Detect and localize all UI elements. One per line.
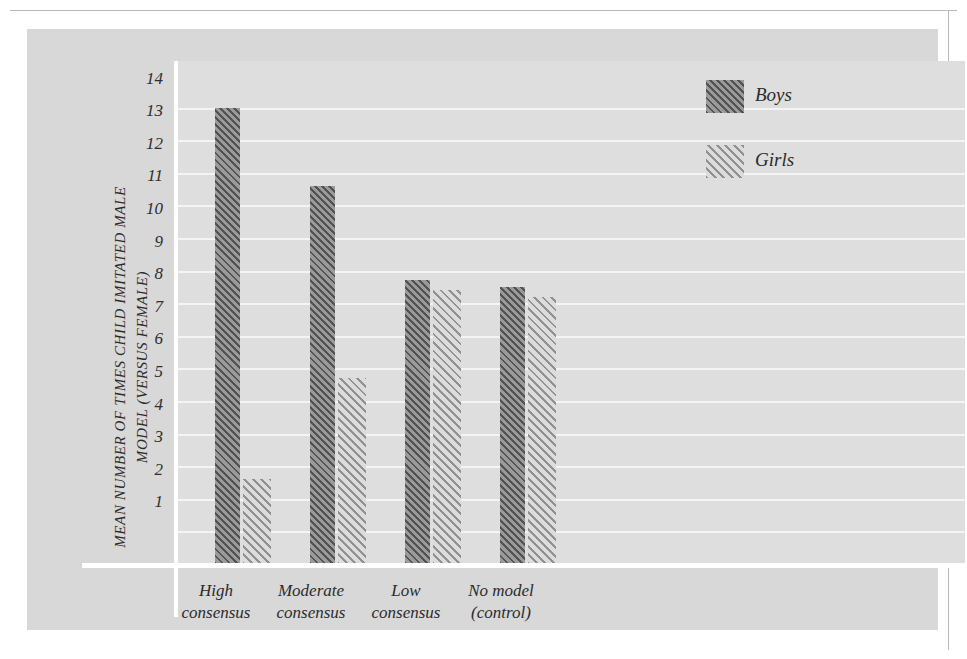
bar-girls-group-4 [528,297,556,564]
y-axis-line [174,61,178,617]
y-tick-label: 14 [123,70,163,87]
x-category-line: No model [426,580,576,602]
x-category-line: (control) [426,602,576,624]
y-tick-label: 13 [123,102,163,119]
bar-girls-group-1 [243,479,271,564]
legend-swatch-boys [706,80,744,113]
bar-boys-group-4 [500,287,525,564]
page-rule-top [10,10,957,11]
bar-girls-group-3 [433,290,461,564]
bar-boys-group-2 [310,186,335,564]
y-tick-label: 12 [123,135,163,152]
y-axis-title: MEAN NUMBER OF TIMES CHILD IMITATED MALE… [109,157,153,577]
x-axis-line [82,563,965,568]
x-category-label: No model(control) [426,580,576,624]
y-axis-title-wrap: MEAN NUMBER OF TIMES CHILD IMITATED MALE… [67,89,107,509]
legend-label-boys: Boys [755,84,792,106]
legend-swatch-girls [706,145,744,178]
legend-label-girls: Girls [755,149,794,171]
figure-panel: 1413121110987654321 MEAN NUMBER OF TIMES… [27,29,938,630]
bar-girls-group-2 [338,378,366,564]
bar-boys-group-1 [215,108,240,564]
bar-boys-group-3 [405,280,430,564]
bars-layer [175,61,965,564]
figure-root: 1413121110987654321 MEAN NUMBER OF TIMES… [0,0,967,659]
